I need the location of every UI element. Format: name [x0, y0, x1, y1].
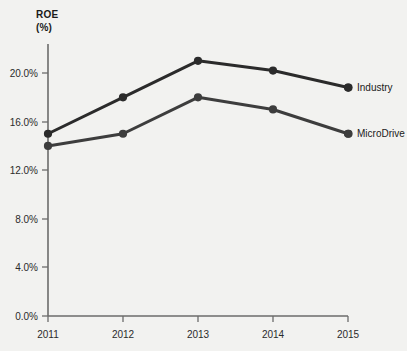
data-point-industry-2014[interactable] [269, 66, 277, 74]
legend-label-industry: Industry [357, 82, 393, 93]
data-point-industry-2013[interactable] [194, 57, 202, 65]
y-tick-label-5: 20.0% [10, 68, 38, 79]
data-point-microdrive-2012[interactable] [119, 130, 127, 138]
x-tick-label-2: 2013 [187, 329, 210, 340]
y-tick-label-4: 16.0% [10, 117, 38, 128]
data-point-microdrive-2011[interactable] [44, 142, 52, 150]
legend-label-microdrive: MicroDrive [357, 128, 405, 139]
y-tick-label-0: 0.0% [15, 311, 38, 322]
y-tick-label-3: 12.0% [10, 165, 38, 176]
x-tick-label-4: 2015 [337, 329, 360, 340]
data-point-industry-2012[interactable] [119, 93, 127, 101]
y-tick-label-1: 4.0% [15, 262, 38, 273]
roe-line-chart: ROE (%) 0.0% 4.0% 8.0% 12.0% 16.0% 20.0%… [0, 0, 407, 351]
legend-marker-microdrive [344, 130, 352, 138]
data-point-microdrive-2014[interactable] [269, 105, 277, 113]
data-point-microdrive-2013[interactable] [194, 93, 202, 101]
series-line-microdrive [48, 97, 348, 146]
chart-legend: IndustryMicroDrive [344, 82, 405, 139]
data-point-industry-2011[interactable] [44, 130, 52, 138]
y-tick-label-2: 8.0% [15, 214, 38, 225]
chart-plot-area: 0.0% 4.0% 8.0% 12.0% 16.0% 20.0% 2011 20… [0, 0, 407, 351]
x-tick-label-3: 2014 [262, 329, 285, 340]
legend-marker-industry [344, 83, 352, 91]
x-tick-label-1: 2012 [112, 329, 135, 340]
series-layer [44, 57, 352, 150]
x-tick-label-0: 2011 [37, 329, 59, 340]
